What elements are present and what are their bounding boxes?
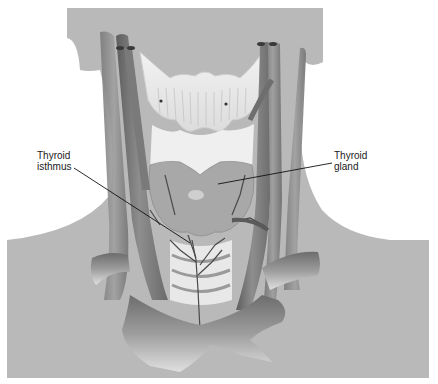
label-thyroid-gland: Thyroid gland (334, 150, 367, 172)
thyroid-anatomy-illustration (0, 0, 438, 384)
left-vessel-lumen-1 (116, 46, 124, 50)
right-vessel-lumen-1 (257, 42, 265, 46)
label-gland-line1: Thyroid (334, 150, 367, 161)
left-vessel-lumen-2 (127, 46, 135, 50)
right-vessel-lumen-2 (269, 42, 277, 46)
cartilage-notch-right (224, 102, 227, 105)
label-gland-line2: gland (334, 161, 367, 172)
label-thyroid-isthmus: Thyroid isthmus (37, 150, 71, 172)
cartilage-notch-left (159, 99, 162, 102)
label-isthmus-line2: isthmus (37, 161, 71, 172)
thyroid-highlight (188, 190, 204, 200)
label-isthmus-line1: Thyroid (37, 150, 71, 161)
